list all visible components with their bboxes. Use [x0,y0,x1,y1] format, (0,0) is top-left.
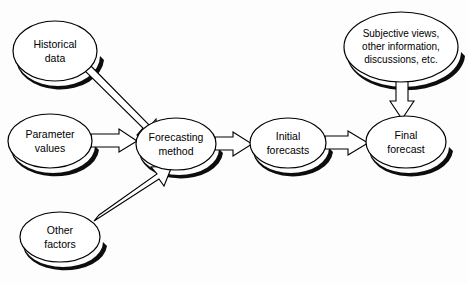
other-factors-label-line1: Other [47,224,74,236]
node-initial-forecasts[interactable]: Initial forecasts [250,118,326,168]
node-forecasting-method[interactable]: Forecasting method [136,118,216,170]
subjective-views-label-line3: discussions, etc. [364,54,437,65]
diagram-canvas: Historical data Parameter values Other f… [0,0,468,284]
edge-other-to-method-arrow [94,166,172,221]
edges-layer [84,63,414,221]
initial-forecasts-label-line2: forecasts [267,144,310,156]
subjective-views-label-line2: other information, [362,41,440,52]
subjective-views-label-line1: Subjective views, [363,28,440,39]
edge-parameter-to-method-arrow [91,129,137,152]
historical-data-label-line2: data [45,52,66,64]
forecasting-method-label-line1: Forecasting [149,131,204,143]
node-parameter-values[interactable]: Parameter values [8,114,92,168]
historical-data-label-line1: Historical [33,38,76,50]
node-final-forecast[interactable]: Final forecast [366,116,446,168]
other-factors-label-line2: factors [44,238,76,250]
final-forecast-label-line2: forecast [387,143,424,155]
parameter-values-label-line2: values [35,142,65,154]
edge-subjective-to-final-arrow [390,77,414,119]
node-historical-data[interactable]: Historical data [13,21,97,81]
parameter-values-label-line1: Parameter [25,128,75,140]
initial-forecasts-label-line1: Initial [276,130,301,142]
forecasting-method-label-line2: method [158,145,193,157]
forecasting-flow-diagram: Historical data Parameter values Other f… [0,0,468,284]
node-subjective-views[interactable]: Subjective views, other information, dis… [344,12,458,82]
node-other-factors[interactable]: Other factors [20,212,100,262]
final-forecast-label-line1: Final [395,129,418,141]
